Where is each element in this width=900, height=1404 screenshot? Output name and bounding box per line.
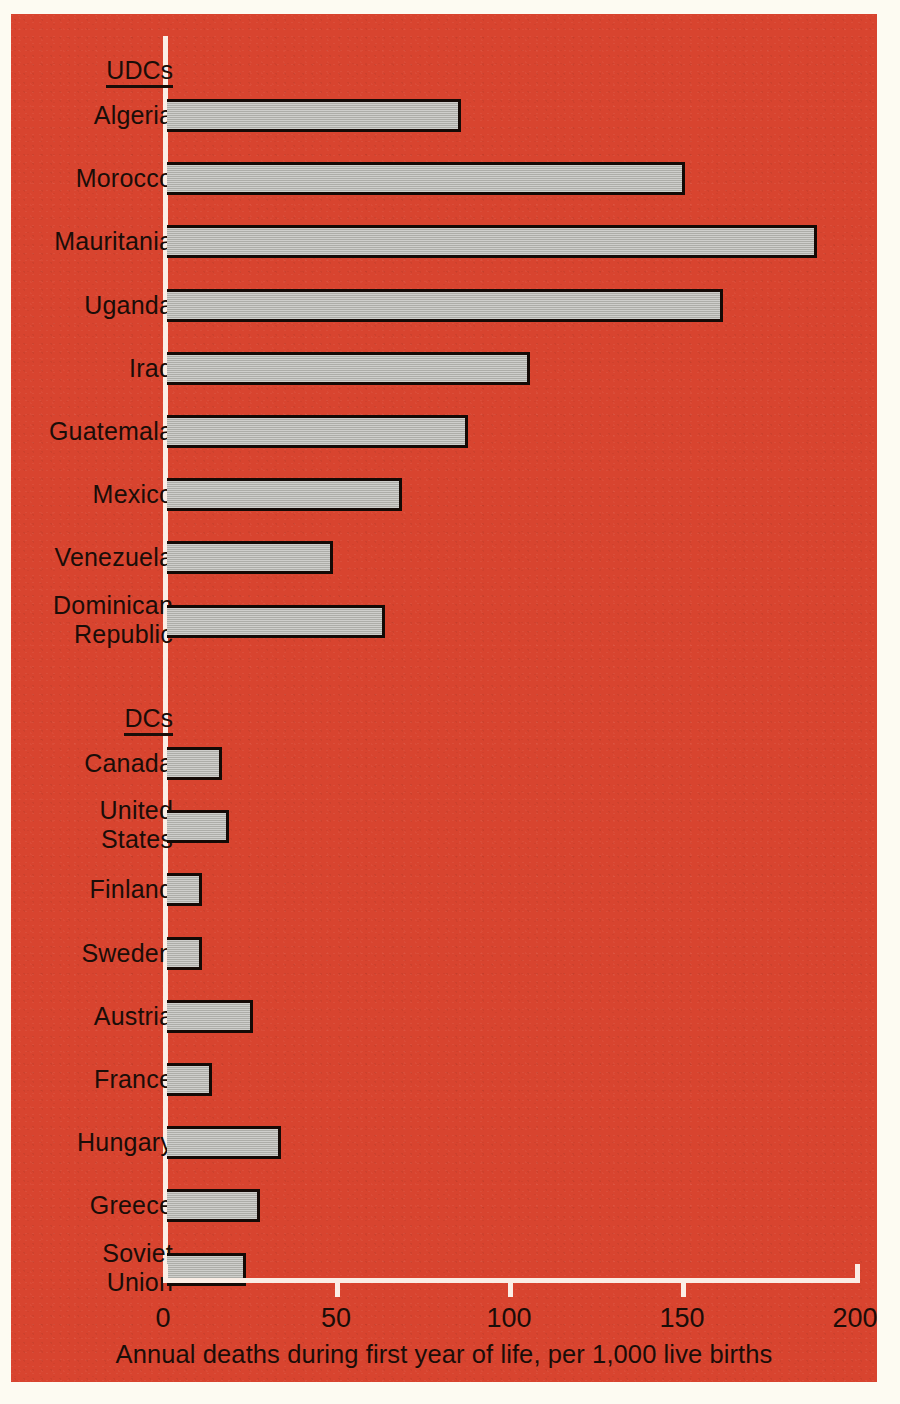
bar-row: Greece xyxy=(11,1189,877,1223)
bar xyxy=(167,541,333,574)
bar-row: Mexico xyxy=(11,478,877,512)
bar xyxy=(167,1000,253,1033)
x-axis-tick-200 xyxy=(855,1264,860,1283)
bar-label: Sweden xyxy=(11,939,173,967)
bar-label: Guatemala xyxy=(11,417,173,445)
bar-label: UnitedStates xyxy=(11,796,173,854)
bar-row: Finland xyxy=(11,873,877,907)
bar xyxy=(167,1189,260,1222)
bar xyxy=(167,937,202,970)
bar-row: Iraq xyxy=(11,352,877,386)
bar-row: DominicanRepublic xyxy=(11,605,877,639)
bar-label: Hungary xyxy=(11,1128,173,1156)
bar-label: Morocco xyxy=(11,164,173,192)
bar-label-line: Union xyxy=(11,1268,173,1297)
x-axis-tick-150 xyxy=(681,1278,686,1297)
bar-row: Mauritania xyxy=(11,225,877,259)
bar xyxy=(167,99,461,132)
bar xyxy=(167,162,685,195)
bar-label: Finland xyxy=(11,875,173,903)
x-axis-tick-0 xyxy=(163,1264,168,1283)
x-axis-title: Annual deaths during first year of life,… xyxy=(11,1339,877,1369)
bar-row: Austria xyxy=(11,1000,877,1034)
bar-row: Hungary xyxy=(11,1126,877,1160)
x-axis-tick-100 xyxy=(508,1278,513,1297)
bar-label: France xyxy=(11,1065,173,1093)
x-axis xyxy=(163,1278,860,1298)
bar-label-line: Republic xyxy=(11,620,173,649)
bar-label: Austria xyxy=(11,1002,173,1030)
bar-label-line: Soviet xyxy=(11,1239,173,1268)
bar xyxy=(167,747,222,780)
bar-rows: AlgeriaMoroccoMauritaniaUgandaIraqGuatem… xyxy=(11,14,877,1264)
bar-label: Mexico xyxy=(11,480,173,508)
bar-row: Sweden xyxy=(11,937,877,971)
bar-label: Mauritania xyxy=(11,227,173,255)
x-axis-tick-label: 150 xyxy=(637,1302,727,1334)
bar xyxy=(167,225,817,258)
bar-row: Algeria xyxy=(11,99,877,133)
bar xyxy=(167,415,468,448)
bar-label: SovietUnion xyxy=(11,1239,173,1297)
x-axis-tick-label: 0 xyxy=(118,1302,208,1334)
bar-label: Uganda xyxy=(11,291,173,319)
bar-row: Canada xyxy=(11,747,877,781)
bar-label: Iraq xyxy=(11,354,173,382)
bar xyxy=(167,810,229,843)
bar xyxy=(167,1063,212,1096)
x-axis-tick-50 xyxy=(335,1278,340,1297)
bar xyxy=(167,873,202,906)
bar-row: UnitedStates xyxy=(11,810,877,844)
x-axis-tick-label: 100 xyxy=(464,1302,554,1334)
bar-label-line: States xyxy=(11,825,173,854)
x-axis-tick-label: 50 xyxy=(291,1302,381,1334)
bar-label: Algeria xyxy=(11,101,173,129)
bar-row: Morocco xyxy=(11,162,877,196)
bar xyxy=(167,1126,281,1159)
bar-row: France xyxy=(11,1063,877,1097)
bar-label: Greece xyxy=(11,1191,173,1219)
bar xyxy=(167,352,530,385)
bar-label-line: Dominican xyxy=(11,591,173,620)
bar xyxy=(167,605,385,638)
x-axis-tick-label: 200 xyxy=(810,1302,877,1334)
bar xyxy=(167,478,402,511)
bar-label: Venezuela xyxy=(11,543,173,571)
chart-figure: UDCs DCs AlgeriaMoroccoMauritaniaUgandaI… xyxy=(11,14,877,1382)
bar-row: Venezuela xyxy=(11,541,877,575)
bar-label-line: United xyxy=(11,796,173,825)
x-axis-tick-labels: 050100150200 xyxy=(11,1302,877,1336)
bar-row: Uganda xyxy=(11,289,877,323)
bar-row: Guatemala xyxy=(11,415,877,449)
bar-label: Canada xyxy=(11,749,173,777)
bar-label: DominicanRepublic xyxy=(11,591,173,649)
bar xyxy=(167,289,723,322)
